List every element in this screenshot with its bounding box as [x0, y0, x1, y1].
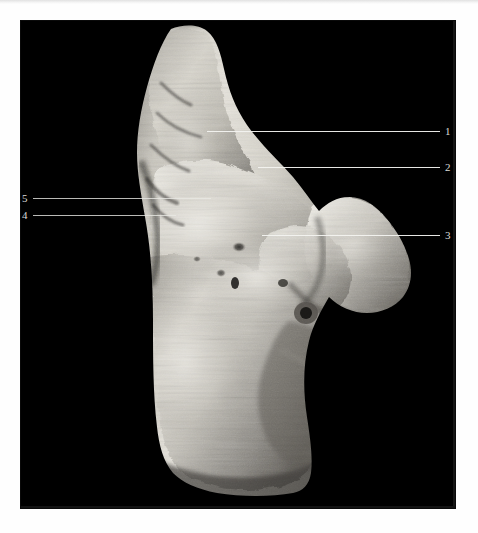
label-number-4: 4 — [22, 210, 28, 221]
label-number-1: 1 — [445, 126, 451, 137]
scan-ghost-text-top — [152, 0, 212, 11]
label-number-5: 5 — [22, 193, 28, 204]
specimen-illustration — [21, 21, 455, 508]
photo-right-edge — [453, 21, 455, 508]
specimen-photograph — [21, 21, 455, 508]
leader-line-2 — [258, 167, 440, 168]
photo-bottom-edge — [21, 506, 455, 508]
label-number-2: 2 — [445, 162, 451, 173]
label-number-3: 3 — [445, 230, 451, 241]
scan-ghost-text-bottom — [300, 512, 450, 528]
leader-line-3 — [262, 235, 440, 236]
leader-line-4 — [33, 215, 176, 216]
leader-line-5 — [33, 198, 211, 199]
scan-artifact-band — [0, 0, 478, 4]
page-canvas: 1 2 3 5 4 — [0, 0, 478, 533]
leader-line-1 — [207, 131, 440, 132]
